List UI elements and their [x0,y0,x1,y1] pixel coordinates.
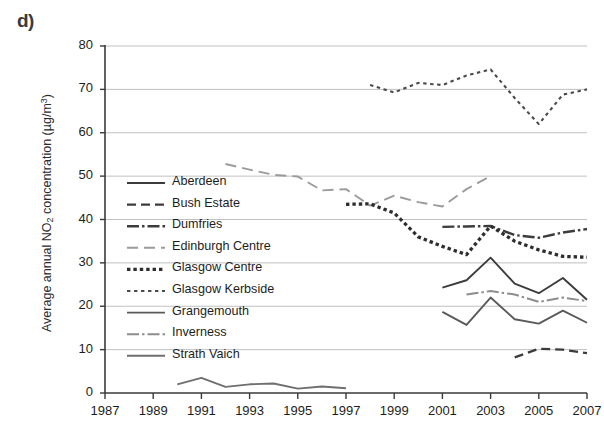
legend-label-aberdeen: Aberdeen [172,174,227,188]
y-tick-label-0: 0 [63,384,93,399]
y-tick-label-30: 30 [63,254,93,269]
x-tick-label-1987: 1987 [82,403,128,418]
legend-label-dumfries: Dumfries [172,217,222,231]
x-tick-label-1997: 1997 [323,403,369,418]
x-tick-label-1995: 1995 [275,403,321,418]
legend-label-inverness: Inverness [172,325,227,339]
series-line-glasgow-centre [346,204,587,257]
legend-label-glasgow-centre: Glasgow Centre [172,260,262,274]
x-tick-label-1993: 1993 [227,403,273,418]
x-tick-label-1989: 1989 [130,403,176,418]
series-line-aberdeen [442,258,587,300]
y-tick-label-20: 20 [63,297,93,312]
y-tick-label-60: 60 [63,124,93,139]
x-tick-label-1999: 1999 [371,403,417,418]
y-tick-label-10: 10 [63,341,93,356]
series-line-glasgow-kerbside [370,69,587,124]
series-line-grangemouth [442,298,587,325]
series-line-edinburgh-centre [226,164,491,207]
y-tick-label-80: 80 [63,37,93,52]
y-tick-label-70: 70 [63,80,93,95]
x-tick-label-2007: 2007 [564,403,604,418]
legend-label-grangemouth: Grangemouth [172,304,249,318]
figure-panel: d) Average annual NO2 concentration (µg/… [0,0,604,432]
legend-label-bush-estate: Bush Estate [172,196,240,210]
series-line-strath-vaich [177,378,346,389]
legend-label-glasgow-kerbside: Glasgow Kerbside [172,282,274,296]
y-tick-label-50: 50 [63,167,93,182]
x-tick-label-2003: 2003 [468,403,514,418]
x-tick-label-1991: 1991 [178,403,224,418]
x-tick-label-2001: 2001 [419,403,465,418]
series-line-dumfries [442,226,587,238]
series-group [177,69,587,388]
x-tick-label-2005: 2005 [516,403,562,418]
legend-label-edinburgh-centre: Edinburgh Centre [172,239,271,253]
series-line-inverness [467,291,588,302]
legend-label-strath-vaich: Strath Vaich [172,347,240,361]
y-tick-label-40: 40 [63,211,93,226]
